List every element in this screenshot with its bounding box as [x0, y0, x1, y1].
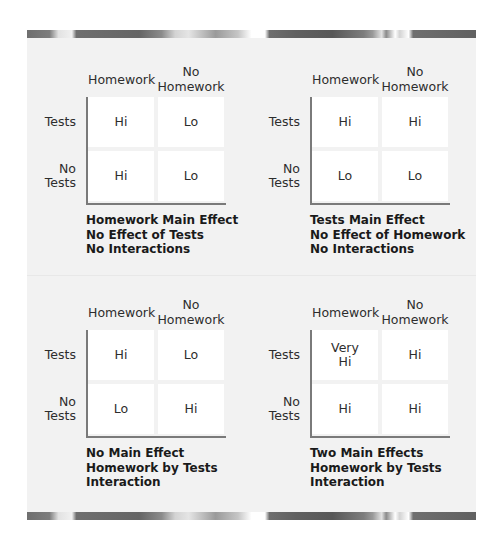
cell-value-line: Hi — [339, 402, 352, 416]
caption-line: No Effect of Homework — [310, 228, 465, 243]
cell-tests-homework: Hi — [88, 97, 154, 147]
horizontal-axis-line — [310, 436, 450, 438]
cell-no-tests-no-homework: Hi — [158, 384, 224, 434]
cell-value-line: Hi — [115, 115, 128, 129]
cell-value-line: Hi — [185, 402, 198, 416]
cell-value-line: Hi — [115, 169, 128, 183]
column-header-no-homework: NoHomework — [154, 64, 228, 94]
cell-value: Lo — [408, 169, 422, 183]
row-header-label-line2: Tests — [28, 176, 76, 190]
column-header-label-line2: Homework — [378, 312, 452, 327]
cell-tests-no-homework: Hi — [382, 97, 448, 147]
row-header-tests: Tests — [252, 348, 300, 362]
panel-caption: Homework Main EffectNo Effect of TestsNo… — [86, 213, 238, 257]
cell-value: Hi — [115, 169, 128, 183]
cell-tests-no-homework: Lo — [158, 330, 224, 380]
row-header-no-tests: NoTests — [252, 162, 300, 190]
cell-value: Hi — [339, 115, 352, 129]
row-header-label-line1: No — [252, 162, 300, 176]
cell-value-line: Hi — [115, 348, 128, 362]
row-header-no-tests: NoTests — [28, 162, 76, 190]
horizontal-axis-line — [86, 436, 226, 438]
cell-value-line: Lo — [184, 169, 198, 183]
row-header-tests: Tests — [252, 115, 300, 129]
cell-value-line: Hi — [409, 115, 422, 129]
cell-tests-no-homework: Hi — [382, 330, 448, 380]
vertical-axis-line — [310, 97, 312, 205]
caption-line: No Effect of Tests — [86, 228, 238, 243]
row-header-label: Tests — [28, 115, 76, 129]
cell-value: Lo — [184, 115, 198, 129]
cell-value-line: Very — [331, 341, 359, 355]
cell-value-line: Lo — [338, 169, 352, 183]
column-header-label-line1: No — [154, 64, 228, 79]
cell-no-tests-homework: Lo — [88, 384, 154, 434]
cell-value-line: Lo — [114, 402, 128, 416]
cell-value: Hi — [185, 402, 198, 416]
row-header-label: Tests — [252, 348, 300, 362]
cell-value: Lo — [338, 169, 352, 183]
cell-value-line: Hi — [339, 115, 352, 129]
column-header-no-homework: NoHomework — [154, 297, 228, 327]
cell-value-line: Lo — [408, 169, 422, 183]
cell-no-tests-no-homework: Lo — [158, 151, 224, 201]
cell-value-line: Lo — [184, 115, 198, 129]
column-header-homework: Homework — [88, 305, 154, 320]
column-header-label-line1: No — [154, 297, 228, 312]
row-header-label-line2: Tests — [252, 409, 300, 423]
column-header-label-line2: Homework — [154, 312, 228, 327]
row-header-label-line1: No — [28, 395, 76, 409]
caption-line: No Main Effect — [86, 446, 218, 461]
row-header-label-line1: No — [252, 395, 300, 409]
panel-caption: Two Main EffectsHomework by TestsInterac… — [310, 446, 442, 490]
caption-line: Two Main Effects — [310, 446, 442, 461]
column-header-label: Homework — [312, 305, 378, 320]
caption-line: No Interactions — [310, 242, 465, 257]
cell-value-line: Hi — [409, 402, 422, 416]
cell-tests-homework: VeryHi — [312, 330, 378, 380]
caption-line: Tests Main Effect — [310, 213, 465, 228]
column-header-homework: Homework — [312, 72, 378, 87]
cell-value: Hi — [409, 348, 422, 362]
column-header-label: Homework — [88, 305, 154, 320]
vertical-axis-line — [310, 330, 312, 438]
cell-value: Lo — [184, 348, 198, 362]
decorative-bottom-stripe — [27, 512, 476, 520]
decorative-top-stripe — [27, 30, 476, 38]
column-header-no-homework: NoHomework — [378, 297, 452, 327]
column-header-no-homework: NoHomework — [378, 64, 452, 94]
cell-tests-no-homework: Lo — [158, 97, 224, 147]
panel-caption: No Main EffectHomework by TestsInteracti… — [86, 446, 218, 490]
column-header-label-line1: No — [378, 297, 452, 312]
column-header-label-line2: Homework — [154, 79, 228, 94]
caption-line: Interaction — [310, 475, 442, 490]
cell-value-line: Hi — [331, 355, 359, 369]
row-header-no-tests: NoTests — [252, 395, 300, 423]
caption-line: Homework Main Effect — [86, 213, 238, 228]
column-header-homework: Homework — [312, 305, 378, 320]
cell-value: Hi — [409, 402, 422, 416]
row-header-label-line2: Tests — [252, 176, 300, 190]
horizontal-divider — [27, 275, 476, 276]
row-header-label-line2: Tests — [28, 409, 76, 423]
vertical-axis-line — [86, 97, 88, 205]
row-header-label-line1: No — [28, 162, 76, 176]
cell-value: Hi — [115, 115, 128, 129]
caption-line: Homework by Tests — [310, 461, 442, 476]
vertical-axis-line — [86, 330, 88, 438]
column-header-label-line1: No — [378, 64, 452, 79]
cell-no-tests-no-homework: Hi — [382, 384, 448, 434]
cell-no-tests-homework: Hi — [312, 384, 378, 434]
row-header-label: Tests — [28, 348, 76, 362]
caption-line: Homework by Tests — [86, 461, 218, 476]
column-header-label: Homework — [312, 72, 378, 87]
cell-value: Hi — [409, 115, 422, 129]
cell-tests-homework: Hi — [312, 97, 378, 147]
cell-value-line: Lo — [184, 348, 198, 362]
cell-no-tests-homework: Lo — [312, 151, 378, 201]
caption-line: Interaction — [86, 475, 218, 490]
row-header-label: Tests — [252, 115, 300, 129]
row-header-no-tests: NoTests — [28, 395, 76, 423]
column-header-label: Homework — [88, 72, 154, 87]
column-header-label-line2: Homework — [378, 79, 452, 94]
